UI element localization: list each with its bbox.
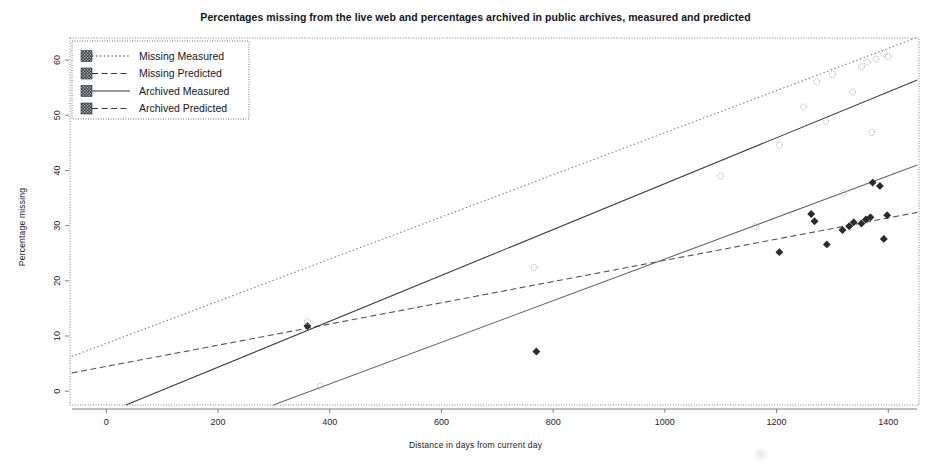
svg-text:40: 40 [52,165,62,175]
svg-text:0: 0 [52,389,62,394]
svg-text:400: 400 [322,417,337,427]
legend-item-label: Archived Measured [139,85,230,97]
x-axis-ticks: 0200400600800100012001400 [72,409,917,427]
chart-figure: Percentages missing from the live web an… [0,0,951,469]
svg-text:600: 600 [434,417,449,427]
x-axis-label: Distance in days from current day [0,440,951,450]
data-points [304,51,891,389]
y-axis-ticks: 0102030405060 [52,55,69,394]
svg-text:60: 60 [52,55,62,65]
svg-text:0: 0 [104,417,109,427]
y-axis-label: Percentage missing [17,147,27,307]
svg-text:20: 20 [52,276,62,286]
scatter-plot: 0200400600800100012001400 0102030405060 … [0,0,951,469]
legend-item-label: Archived Predicted [139,102,227,114]
svg-text:200: 200 [211,417,226,427]
svg-text:1000: 1000 [655,417,675,427]
chart-legend: Missing MeasuredMissing PredictedArchive… [72,41,249,119]
legend-item-label: Missing Predicted [139,67,222,79]
svg-text:1400: 1400 [878,417,898,427]
scan-artifact [753,447,769,461]
svg-text:30: 30 [52,221,62,231]
svg-text:1200: 1200 [767,417,787,427]
svg-text:10: 10 [52,331,62,341]
legend-item-label: Missing Measured [139,50,224,62]
svg-text:50: 50 [52,110,62,120]
svg-text:800: 800 [546,417,561,427]
